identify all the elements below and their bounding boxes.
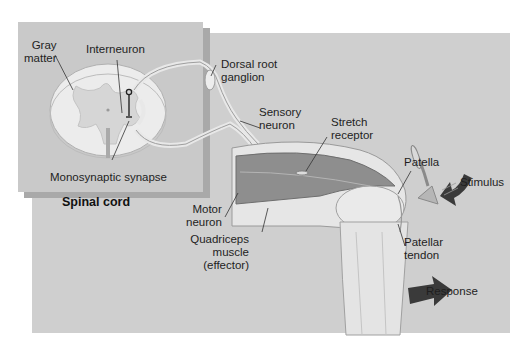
label-quadriceps-line1: Quadriceps	[190, 233, 249, 246]
label-quadriceps-line3: (effector)	[190, 259, 249, 272]
label-motor-line1: Motor	[186, 203, 222, 216]
label-sensory-line2: neuron	[259, 119, 301, 132]
label-interneuron: Interneuron	[86, 43, 145, 56]
label-response-line1: Response	[426, 285, 478, 298]
label-stimulus: Stimulus	[460, 176, 504, 189]
label-quadriceps-line2: muscle	[190, 246, 249, 259]
label-patella: Patella	[404, 156, 439, 169]
label-interneuron-line1: Interneuron	[86, 43, 145, 56]
label-sensory-neuron: Sensory neuron	[259, 106, 301, 132]
label-quadriceps: Quadriceps muscle (effector)	[190, 233, 249, 272]
label-stretch-line1: Stretch	[331, 116, 373, 129]
label-gray-matter-line2: matter	[24, 52, 57, 65]
label-dorsal-root-line1: Dorsal root	[221, 58, 277, 71]
reflex-hammer-icon	[409, 145, 438, 204]
label-gray-matter: Gray matter	[24, 39, 57, 65]
label-sensory-line1: Sensory	[259, 106, 301, 119]
label-response: Response	[426, 285, 478, 298]
label-monosynaptic-line1: Monosynaptic synapse	[50, 171, 167, 184]
label-dorsal-root-line2: ganglion	[221, 71, 277, 84]
inset-title: Spinal cord	[62, 196, 130, 209]
leg-illustration	[232, 142, 408, 335]
label-tendon-line1: Patellar	[404, 236, 443, 249]
label-motor-line2: neuron	[186, 216, 222, 229]
label-patella-line1: Patella	[404, 156, 439, 169]
label-motor-neuron: Motor neuron	[186, 203, 222, 229]
label-stimulus-line1: Stimulus	[460, 176, 504, 189]
label-stretch-receptor: Stretch receptor	[331, 116, 373, 142]
label-monosynaptic-synapse: Monosynaptic synapse	[50, 171, 167, 184]
label-patellar-tendon: Patellar tendon	[404, 236, 443, 262]
label-dorsal-root-ganglion: Dorsal root ganglion	[221, 58, 277, 84]
label-gray-matter-line1: Gray	[24, 39, 57, 52]
label-tendon-line2: tendon	[404, 249, 443, 262]
label-stretch-line2: receptor	[331, 129, 373, 142]
